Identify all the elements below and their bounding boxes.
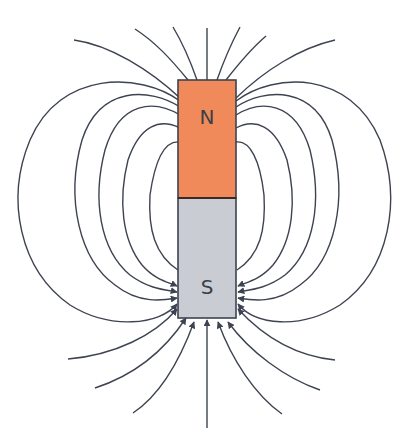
magnet-field-diagram: N S bbox=[0, 0, 407, 442]
left-field-loops bbox=[18, 82, 180, 322]
north-pole-label: N bbox=[200, 105, 215, 129]
north-pole bbox=[178, 80, 236, 198]
south-pole bbox=[178, 198, 236, 318]
right-field-loops bbox=[236, 82, 391, 322]
south-pole-label: S bbox=[201, 275, 214, 299]
bar-magnet: N S bbox=[178, 80, 236, 318]
bottom-field-lines bbox=[68, 309, 335, 428]
